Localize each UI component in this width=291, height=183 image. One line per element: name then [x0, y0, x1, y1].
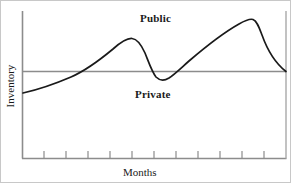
- y-axis-label: Inventory: [4, 56, 16, 116]
- region-label-private: Private: [135, 88, 171, 100]
- axis-group: [22, 11, 287, 159]
- region-label-public: Public: [140, 12, 171, 24]
- inventory-curve: [23, 19, 286, 93]
- inventory-cycle-figure: Public Private Months Inventory: [0, 0, 291, 183]
- x-axis-label: Months: [123, 166, 157, 178]
- x-axis-tick-group: [44, 151, 264, 159]
